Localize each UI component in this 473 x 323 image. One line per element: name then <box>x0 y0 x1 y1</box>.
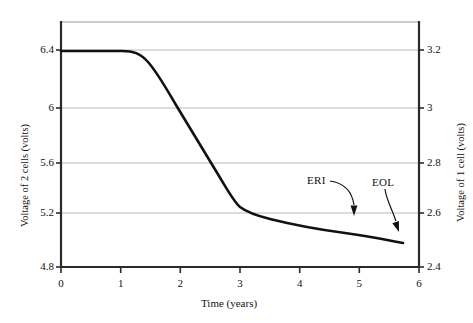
x-tick-label-0: 0 <box>46 277 76 289</box>
x-tick-label-2: 2 <box>165 277 195 289</box>
y-axis-title-left: Voltage of 2 cells (volts) <box>19 124 30 227</box>
x-axis-title: Time (years) <box>201 297 257 309</box>
y-tick-label-6: 6 <box>16 101 54 113</box>
eol-annotation-arrow <box>385 189 399 232</box>
y-tick-label-4-8: 4.8 <box>16 260 54 272</box>
gridlines <box>61 50 419 213</box>
x-tick-label-1: 1 <box>106 277 136 289</box>
x-tick-label-3: 3 <box>225 277 255 289</box>
x-tick-label-5: 5 <box>344 277 374 289</box>
y2-tick-label-2-4: 2.4 <box>427 260 463 272</box>
y2-tick-label-3: 3 <box>427 101 463 113</box>
y2-tick-label-3-2: 3.2 <box>427 43 463 55</box>
x-tick-label-4: 4 <box>285 277 315 289</box>
eri-annotation-arrow <box>330 181 357 216</box>
annotation-label-eol: EOL <box>372 176 394 188</box>
chart-canvas <box>0 0 473 323</box>
annotation-label-eri: ERI <box>307 174 326 186</box>
y-tick-label-6-4: 6.4 <box>16 43 54 55</box>
chart-figure: 6.4 6 5.6 5.2 4.8 3.2 3 2.8 2.6 2.4 0 1 … <box>0 0 473 323</box>
x-tick-label-6: 6 <box>404 277 434 289</box>
voltage-curve <box>61 51 403 243</box>
y-axis-title-right: Voltage of 1 cell (volts) <box>455 123 466 222</box>
